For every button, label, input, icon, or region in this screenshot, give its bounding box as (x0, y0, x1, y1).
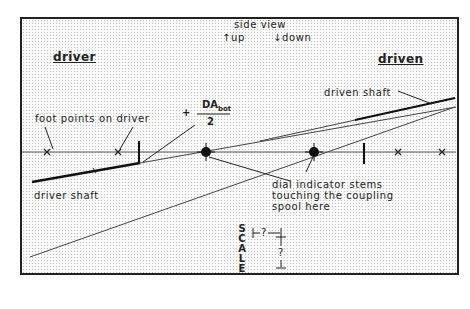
driven-title: driven (378, 54, 424, 65)
down-label: down (282, 32, 311, 43)
scale-horizontal-value: ? (261, 227, 267, 238)
formula-sign: + (182, 107, 190, 118)
dial-label-line1: dial indicator stems (272, 179, 383, 190)
formula-numerator-text: DA (202, 99, 218, 110)
down-arrow-icon: ↓ (273, 32, 282, 43)
scale-vertical-value: ? (278, 247, 284, 258)
leader-foot-2 (120, 127, 133, 149)
dial-label-line2: touching the coupling (272, 190, 394, 201)
up-indicator: ↑up (222, 32, 245, 43)
driven-shaft-label: driven shaft (324, 87, 391, 98)
side-view-label: side view (234, 19, 286, 30)
up-label: up (231, 32, 245, 43)
driver-shaft-label: driver shaft (34, 190, 99, 201)
foot-points-label: foot points on driver (35, 113, 149, 124)
formula-numerator: DAbot (202, 99, 231, 113)
scale-label: S C A L E (238, 224, 246, 274)
up-arrow-icon: ↑ (222, 32, 231, 43)
formula-subscript: bot (218, 105, 231, 113)
driver-shaft-line (32, 163, 140, 182)
driven-shaft-thick (355, 98, 455, 120)
leader-formula (143, 125, 195, 162)
leader-driven-shaft (398, 91, 432, 104)
leader-foot-1 (45, 127, 53, 149)
dial-label-line3: spool here (272, 201, 330, 212)
diagram-lines (0, 0, 470, 309)
formula-denominator: 2 (207, 116, 214, 127)
dial-point-right (305, 143, 323, 161)
scale-letter: E (238, 264, 246, 274)
driver-title: driver (53, 52, 96, 63)
down-indicator: ↓down (273, 32, 311, 43)
